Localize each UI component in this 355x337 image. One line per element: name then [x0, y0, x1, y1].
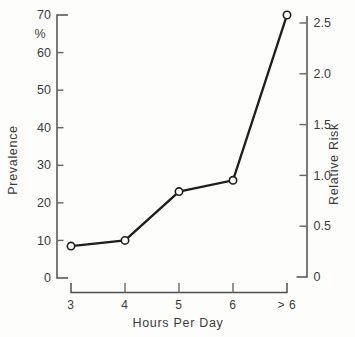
y-axis-right-tick-label: 0.5 — [314, 219, 331, 233]
x-axis-tick-label: > 6 — [278, 298, 297, 312]
y-axis-right-title: Relative Risk — [327, 123, 341, 205]
y-axis-right-tick-label: 2.5 — [314, 16, 331, 30]
data-point-marker — [175, 188, 182, 195]
y-axis-left — [57, 15, 68, 278]
y-axis-right — [297, 16, 308, 277]
y-axis-left-tick-label: 50 — [37, 83, 51, 97]
y-axis-left-tick-label: 10 — [37, 234, 51, 248]
line-chart-svg: 010203040506070%Prevalence00.51.01.52.02… — [0, 0, 355, 337]
prevalence-relative-risk-chart: 010203040506070%Prevalence00.51.01.52.02… — [0, 0, 355, 337]
y-axis-left-tick-label: 0 — [44, 271, 51, 285]
data-point-marker — [67, 242, 74, 249]
x-axis-title: Hours Per Day — [132, 316, 223, 330]
y-axis-left-tick-label: 30 — [37, 158, 51, 172]
y-axis-left-tick-label: 70 — [37, 8, 51, 22]
y-axis-left-title: Prevalence — [6, 125, 20, 195]
y-axis-left-tick-label: 60 — [37, 46, 51, 60]
y-axis-left-unit-label: % — [34, 27, 45, 41]
y-axis-left-tick-label: 40 — [37, 121, 51, 135]
data-series-line — [71, 15, 287, 246]
data-point-marker — [229, 177, 236, 184]
y-axis-right-tick-label: 2.0 — [314, 67, 331, 81]
x-axis-tick-label: 3 — [67, 298, 74, 312]
data-point-marker — [283, 11, 290, 18]
x-axis-tick-label: 6 — [229, 298, 236, 312]
y-axis-left-tick-label: 20 — [37, 196, 51, 210]
data-point-marker — [121, 237, 128, 244]
y-axis-right-tick-label: 0 — [314, 270, 321, 284]
x-axis-tick-label: 4 — [121, 298, 128, 312]
x-axis-tick-label: 5 — [175, 298, 182, 312]
